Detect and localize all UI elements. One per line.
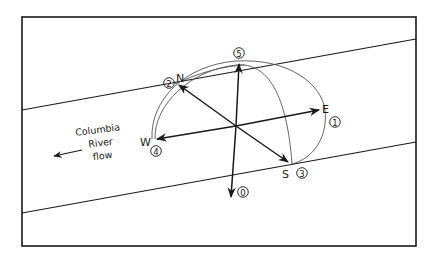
arc-top	[175, 65, 245, 84]
river-bank-north	[22, 39, 416, 110]
diagram-canvas: Columbia River flow N S E W 5 2 1 4 3 0	[0, 0, 435, 261]
river-label-line2: River	[88, 136, 114, 150]
river-flow-arrow	[54, 150, 82, 156]
arrow-east	[236, 110, 319, 126]
river-bank-south	[22, 142, 416, 213]
arrow-5	[236, 64, 239, 126]
marker-0: 0	[240, 188, 245, 198]
river-label-line3: flow	[92, 149, 113, 162]
arrow-west	[157, 126, 236, 139]
label-south: S	[282, 168, 289, 181]
arrow-north	[179, 85, 236, 126]
marker-4: 4	[153, 147, 158, 157]
marker-numbers: 5 2 1 4 3 0	[153, 49, 337, 198]
marker-5: 5	[236, 49, 241, 59]
river-label: Columbia River flow	[75, 121, 121, 162]
arrow-south	[236, 126, 288, 162]
marker-2: 2	[166, 79, 171, 89]
label-north: N	[176, 72, 184, 85]
label-west: W	[140, 136, 151, 149]
arrow-0	[231, 126, 236, 197]
label-east: E	[322, 103, 329, 116]
river-label-line1: Columbia	[75, 121, 121, 137]
marker-1: 1	[332, 118, 337, 128]
marker-3: 3	[299, 169, 304, 179]
